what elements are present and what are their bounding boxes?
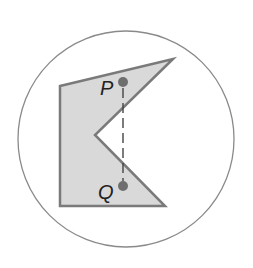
point-q-marker: [118, 181, 128, 191]
point-q-label: Q: [98, 182, 114, 202]
point-p-marker: [118, 77, 128, 87]
point-p-label: P: [100, 78, 113, 98]
concave-polygon: [60, 59, 173, 206]
bounding-circle: [18, 31, 234, 247]
geometry-diagram: [0, 0, 253, 268]
